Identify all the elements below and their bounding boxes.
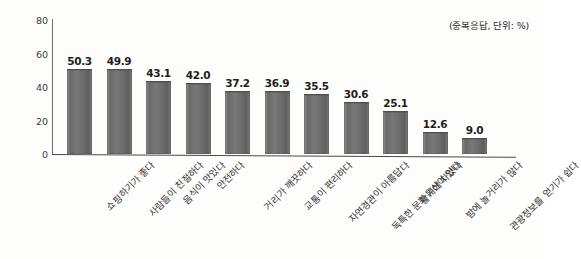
y-tick-label: 0 (26, 149, 48, 160)
y-tick-label: 80 (26, 15, 48, 26)
bar-value-label: 49.9 (96, 55, 143, 67)
bar (423, 132, 448, 154)
bar (304, 94, 329, 154)
y-axis-ticks: 020406080 (22, 0, 48, 259)
y-tick-label: 40 (26, 82, 48, 93)
bar-value-label: 25.1 (372, 97, 419, 109)
bar (383, 111, 408, 154)
bar (186, 83, 211, 154)
bar (225, 91, 250, 154)
x-axis-labels: 쇼핑하기가 좋다사람들이 친절하다음식이 맛있다안전하다거리가 깨끗하다교통이 … (52, 158, 522, 259)
bar (344, 102, 369, 154)
bar (265, 91, 290, 154)
bar (462, 138, 487, 154)
x-axis-label: 밤에 놀거리가 많다 (461, 158, 524, 221)
bar (146, 81, 171, 154)
bar (107, 69, 132, 154)
y-tick-label: 60 (26, 48, 48, 59)
bar (67, 69, 92, 154)
y-tick-label: 20 (26, 115, 48, 126)
bar-value-label: 9.0 (451, 124, 498, 136)
x-axis-label: 활기에 차있다 (416, 158, 465, 207)
